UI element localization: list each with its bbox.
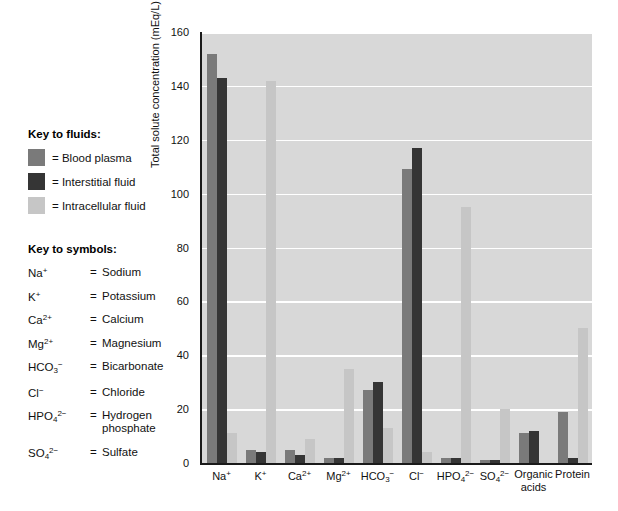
symbol-name: Hydrogenphosphate <box>102 409 156 435</box>
bar <box>441 458 451 463</box>
bar <box>383 428 393 463</box>
bar <box>246 450 256 463</box>
bar-group <box>475 32 514 463</box>
bar <box>305 439 315 463</box>
symbol-equals: = <box>90 266 102 278</box>
symbol-name: Calcium <box>102 313 144 326</box>
symbol-equals: = <box>90 409 102 421</box>
bar <box>334 458 344 463</box>
symbol-equals: = <box>90 386 102 398</box>
bar <box>285 450 295 463</box>
x-tick-label: Na+ <box>202 468 241 493</box>
bar <box>256 452 266 463</box>
y-tick-label: 140 <box>171 80 189 92</box>
bar <box>558 412 568 463</box>
x-tick-label: K+ <box>241 468 280 493</box>
bar <box>412 148 422 463</box>
symbol-formula: HPO42− <box>28 409 90 424</box>
x-tick-label: HCO3− <box>358 468 397 493</box>
y-tick-label: 120 <box>171 134 189 146</box>
x-tick-label: HPO42− <box>436 468 475 493</box>
bar <box>344 369 354 463</box>
bar <box>529 431 539 463</box>
bar-group <box>202 32 241 463</box>
symbol-equals: = <box>90 337 102 349</box>
symbol-formula: Na+ <box>28 266 90 279</box>
legend-item-label: = Blood plasma <box>52 152 132 164</box>
bar <box>363 390 373 463</box>
bar <box>295 455 305 463</box>
bar-group <box>241 32 280 463</box>
bar <box>266 81 276 464</box>
legend-swatch-icon <box>28 173 45 190</box>
bar-group <box>358 32 397 463</box>
y-tick-label: 20 <box>177 403 189 415</box>
bar <box>402 169 412 463</box>
symbol-name: Sulfate <box>102 446 138 459</box>
symbol-name: Potassium <box>102 290 156 303</box>
symbol-equals: = <box>90 290 102 302</box>
bar <box>217 78 227 463</box>
bar <box>490 460 500 463</box>
bar-group <box>514 32 553 463</box>
bar <box>519 433 529 463</box>
legend-swatch-icon <box>28 149 45 166</box>
x-tick-label: Ca2+ <box>280 468 319 493</box>
bar-chart: Total solute concentration (mEq/L) 02040… <box>155 18 618 511</box>
x-tick-label: Protein <box>553 468 592 493</box>
symbol-formula: Mg2+ <box>28 337 90 350</box>
y-axis-ticks: 020406080100120140160 <box>161 18 193 473</box>
symbol-name: Magnesium <box>102 337 161 350</box>
x-tick-label: Mg2+ <box>319 468 358 493</box>
symbol-equals: = <box>90 313 102 325</box>
symbol-formula: Cl− <box>28 386 90 399</box>
bar-group <box>553 32 592 463</box>
y-tick-label: 0 <box>183 457 189 469</box>
y-axis-title: Total solute concentration (mEq/L) <box>149 0 161 168</box>
symbol-formula: Ca2+ <box>28 313 90 326</box>
y-tick-label: 80 <box>177 242 189 254</box>
bar <box>227 433 237 463</box>
bar <box>451 458 461 463</box>
plot-area <box>200 32 592 465</box>
symbol-formula: K+ <box>28 290 90 303</box>
symbol-equals: = <box>90 446 102 458</box>
symbol-name: Chloride <box>102 386 145 399</box>
bar <box>578 328 588 463</box>
bar <box>461 207 471 463</box>
y-tick-label: 100 <box>171 188 189 200</box>
x-tick-label: Organicacids <box>514 468 553 493</box>
symbol-equals: = <box>90 360 102 372</box>
bar-groups <box>202 32 592 463</box>
bar <box>500 409 510 463</box>
bar <box>324 458 334 463</box>
bar-group <box>436 32 475 463</box>
x-tick-label: Cl− <box>397 468 436 493</box>
symbol-name: Sodium <box>102 266 141 279</box>
y-tick-label: 60 <box>177 295 189 307</box>
symbol-formula: HCO3− <box>28 360 90 375</box>
y-tick-label: 40 <box>177 349 189 361</box>
bar <box>207 54 217 463</box>
y-tick-label: 160 <box>171 26 189 38</box>
bar <box>373 382 383 463</box>
bar-group <box>280 32 319 463</box>
bar <box>422 452 432 463</box>
legend-swatch-icon <box>28 197 45 214</box>
legend-item-label: = Intracellular fluid <box>52 200 146 212</box>
bar <box>568 458 578 463</box>
bar <box>480 460 490 463</box>
symbol-formula: SO42− <box>28 446 90 461</box>
x-tick-label: SO42− <box>475 468 514 493</box>
legend-item-label: = Interstitial fluid <box>52 176 135 188</box>
bar-group <box>397 32 436 463</box>
x-axis-labels: Na+K+Ca2+Mg2+HCO3−Cl−HPO42−SO42−Organica… <box>202 468 592 493</box>
bar-group <box>319 32 358 463</box>
